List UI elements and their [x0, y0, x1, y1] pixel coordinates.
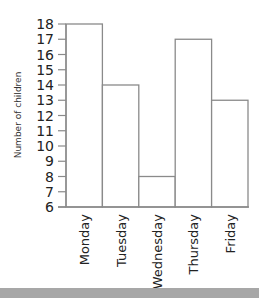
y-tick-label: 6: [45, 199, 54, 215]
y-tick-label: 15: [36, 62, 54, 78]
x-tick-label-tuesday: Tuesday: [114, 214, 129, 268]
x-tick-label-monday: Monday: [77, 214, 92, 266]
y-tick-label: 17: [36, 31, 54, 47]
y-tick-label: 18: [36, 16, 54, 32]
x-axis-labels: MondayTuesdayWednesdayThursdayFriday: [77, 214, 238, 290]
y-tick-label: 16: [36, 47, 54, 63]
y-tick-label: 8: [45, 169, 54, 185]
bar-thursday: [175, 39, 211, 207]
y-tick-label: 9: [45, 153, 54, 169]
bar-chart: Number of children 678910111213141516171…: [0, 0, 259, 298]
bar-friday: [212, 100, 248, 207]
bar-monday: [66, 24, 102, 207]
y-axis-ticks: 6789101112131415161718: [36, 16, 66, 215]
x-tick-label-friday: Friday: [223, 214, 238, 254]
bar-tuesday: [102, 85, 138, 207]
y-tick-label: 12: [36, 108, 54, 124]
y-axis-label: Number of children: [13, 72, 23, 159]
x-tick-label-thursday: Thursday: [186, 214, 201, 276]
y-tick-label: 10: [36, 138, 54, 154]
bars: [66, 24, 248, 207]
y-tick-label: 11: [36, 123, 54, 139]
y-tick-label: 7: [45, 184, 54, 200]
bar-wednesday: [139, 177, 175, 208]
y-tick-label: 14: [36, 77, 54, 93]
bottom-divider: [0, 288, 259, 298]
y-tick-label: 13: [36, 92, 54, 108]
x-tick-label-wednesday: Wednesday: [150, 214, 165, 290]
